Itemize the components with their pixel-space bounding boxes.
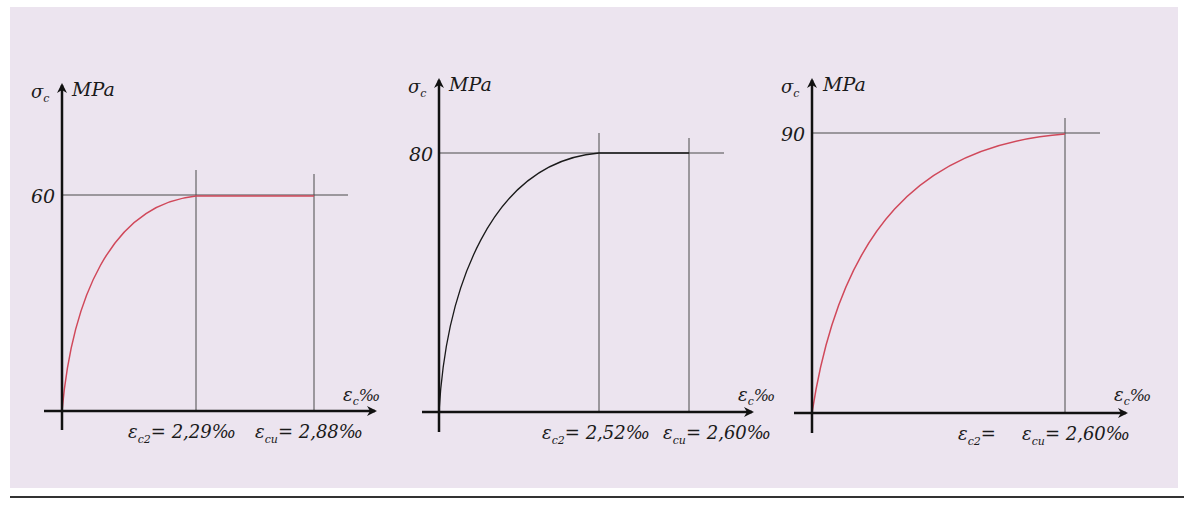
eps-c2-label: εc2= 2,52‰ [542, 422, 650, 447]
y-axis-unit: MPa [448, 73, 492, 95]
figure-caption [12, 502, 1182, 506]
eps-cu-label: εcu= 2,60‰ [1022, 423, 1130, 448]
y-axis-unit: MPa [71, 78, 115, 100]
peak-label: 60 [31, 185, 55, 207]
x-axis-symbol: εc‰ [343, 384, 380, 408]
x-axis-symbol: εc‰ [1114, 384, 1151, 408]
eps-c2-label: εc2= 2,29‰ [128, 421, 236, 446]
y-axis-symbol: σc [31, 81, 49, 105]
chart-2: σc MPa 80 εc‰ εc2= 2,52‰ εcu= 2,60‰ [408, 73, 775, 447]
stress-strain-curve [812, 134, 1065, 413]
eps-cu-label: εcu= 2,88‰ [255, 421, 363, 446]
peak-label: 80 [409, 143, 433, 165]
x-axis-symbol: εc‰ [738, 384, 775, 408]
caption-rule [10, 496, 1184, 498]
stress-strain-curve [439, 153, 689, 412]
chart-1: σc MPa 60 εc‰ εc2= 2,29‰ εcu= 2,88‰ [31, 78, 380, 446]
eps-cu-label: εcu= 2,60‰ [663, 422, 771, 447]
peak-label: 90 [781, 123, 805, 145]
y-axis-unit: MPa [822, 73, 866, 95]
figure-canvas: σc MPa 60 εc‰ εc2= 2,29‰ εcu= 2,88‰ σc M… [0, 0, 1184, 506]
y-axis-symbol: σc [408, 76, 426, 100]
eps-c2-label: εc2= [958, 423, 996, 448]
stress-strain-curve [62, 196, 314, 411]
chart-3: σc MPa 90 εc‰ εc2= εcu= 2,60‰ [781, 73, 1151, 448]
y-axis-symbol: σc [781, 76, 799, 100]
